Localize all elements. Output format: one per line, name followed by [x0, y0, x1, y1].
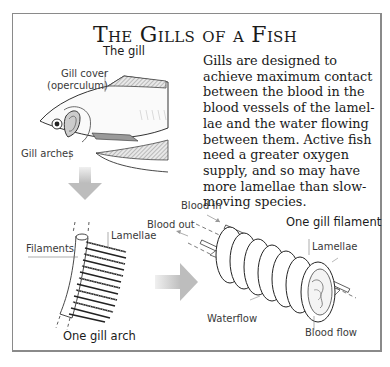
- label-blood-out: Blood out: [147, 219, 195, 230]
- right-arrow-icon: [155, 263, 198, 301]
- label-filament-lamellae: Lamellae: [312, 241, 357, 252]
- label-arch-lamellae: Lamellae: [111, 230, 156, 241]
- fish-panel-heading: The gill: [103, 44, 145, 58]
- label-filaments: Filaments: [26, 243, 74, 254]
- label-blood-in: Blood in: [181, 200, 222, 211]
- filament-panel-heading: One gill filament: [286, 215, 381, 229]
- down-arrow-icon: [68, 167, 102, 200]
- label-gill-cover: Gill cover: [61, 68, 108, 79]
- label-operculum: (operculum): [47, 80, 108, 91]
- label-blood-flow: Blood flow: [305, 327, 357, 338]
- label-waterflow: Waterflow: [207, 313, 257, 324]
- illustration-canvas: [0, 0, 390, 367]
- label-gill-arches: Gill arches: [21, 148, 73, 159]
- arch-panel-heading: One gill arch: [63, 329, 136, 343]
- gill-filament-illustration: [176, 215, 356, 330]
